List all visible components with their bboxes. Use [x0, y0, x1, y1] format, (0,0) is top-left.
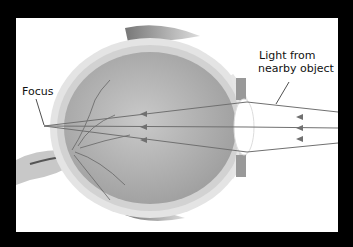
light-label-line2: nearby object — [258, 63, 334, 75]
light-label-line1: Light from — [259, 50, 316, 62]
diagram-panel: Focus Light from nearby object — [16, 18, 338, 232]
focus-label: Focus — [22, 86, 53, 98]
vitreous-body — [64, 52, 236, 204]
iris-top — [236, 78, 246, 100]
focus-leader — [36, 99, 44, 125]
light-leader — [276, 82, 289, 104]
iris-bottom — [236, 155, 246, 177]
